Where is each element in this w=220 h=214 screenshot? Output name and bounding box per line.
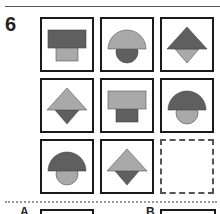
grid-cell-r3c1 xyxy=(40,139,94,194)
separator-dotted xyxy=(5,201,217,203)
grid-cell-r1c2 xyxy=(100,17,154,72)
option-label-b: B xyxy=(146,205,155,214)
question-number: 6 xyxy=(5,13,16,36)
empty-answer-slot xyxy=(160,139,214,194)
semicircle-over-circle-icon xyxy=(162,80,212,131)
semicircle-over-circle-icon xyxy=(42,141,92,192)
grid-cell-r1c3 xyxy=(160,17,214,72)
option-a-box[interactable] xyxy=(40,209,94,214)
rect-over-small-rect-icon xyxy=(42,19,92,70)
semicircle-over-circle-icon xyxy=(102,19,152,70)
grid-cell-r2c3 xyxy=(160,78,214,133)
grid-cell-r2c1 xyxy=(40,78,94,133)
grid-cell-r1c1 xyxy=(40,17,94,72)
top-divider xyxy=(5,6,220,7)
triangle-over-inverted-triangle-icon xyxy=(102,141,152,192)
triangle-over-inverted-triangle-icon xyxy=(42,80,92,131)
option-label-a: A xyxy=(20,205,29,214)
triangle-over-inverted-triangle-icon xyxy=(162,19,212,70)
grid-cell-r2c2 xyxy=(100,78,154,133)
option-b-box[interactable] xyxy=(160,209,216,214)
rect-over-small-rect-icon xyxy=(102,80,152,131)
grid-cell-r3c2 xyxy=(100,139,154,194)
